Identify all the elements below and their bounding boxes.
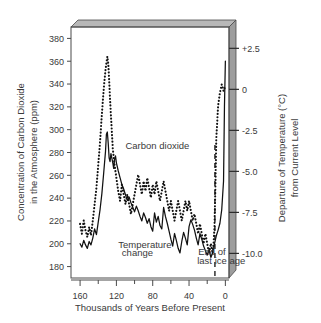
right-tick-label: -5.0: [242, 167, 258, 177]
left-tick-label: 360: [49, 57, 64, 67]
right-tick-label: -7.5: [242, 208, 258, 218]
x-tick-label: 160: [73, 291, 88, 301]
svg-text:from Current Level: from Current Level: [289, 119, 300, 198]
temperature-curve: [80, 57, 225, 254]
left-tick-label: 380: [49, 34, 64, 44]
right-tick-label: +2.5: [242, 44, 260, 54]
co2-curve: [80, 61, 225, 257]
x-tick-label: 120: [109, 291, 124, 301]
left-tick-label: 280: [49, 148, 64, 158]
svg-text:Concentration of Carbon Dioxid: Concentration of Carbon Dioxide: [15, 83, 26, 221]
svg-text:in the Atmosphere (ppm): in the Atmosphere (ppm): [28, 100, 39, 204]
x-tick-label: 80: [148, 291, 158, 301]
left-tick-label: 180: [49, 262, 64, 272]
left-tick-label: 300: [49, 125, 64, 135]
annotation-label: change: [122, 247, 153, 258]
left-tick-label: 200: [49, 239, 64, 249]
left-tick-label: 240: [49, 193, 64, 203]
annotation-label: last ice age: [197, 255, 245, 266]
left-tick-label: 320: [49, 102, 64, 112]
x-axis-title: Thousands of Years Before Present: [75, 302, 225, 313]
chart-annotations: Carbon dioxideTemperaturechangeEnd oflas…: [118, 140, 245, 266]
annotation-label: Carbon dioxide: [125, 140, 189, 151]
data-series-layer: [80, 57, 225, 258]
x-tick-label: 0: [223, 291, 228, 301]
x-tick-label: 40: [184, 291, 194, 301]
y-axis-right-title: Departure of Temperature (°C) from Curre…: [276, 94, 300, 222]
left-tick-label: 340: [49, 79, 64, 89]
x-axis-ticks: 16012080400: [71, 280, 229, 301]
right-tick-label: 0: [242, 85, 247, 95]
left-tick-label: 220: [49, 216, 64, 226]
y-axis-left-title: Concentration of Carbon Dioxide in the A…: [15, 83, 39, 221]
left-axis-ticks: 180200220240260280300320340360380: [49, 34, 71, 272]
frame-top-panel: [71, 20, 236, 27]
chart-canvas: 180200220240260280300320340360380 +2.50-…: [0, 0, 321, 323]
right-tick-label: -2.5: [242, 126, 258, 136]
svg-text:Departure of Temperature (°C): Departure of Temperature (°C): [276, 94, 287, 222]
left-tick-label: 260: [49, 171, 64, 181]
frame-right-panel: [229, 20, 236, 278]
co2-temperature-chart: 180200220240260280300320340360380 +2.50-…: [0, 0, 321, 323]
